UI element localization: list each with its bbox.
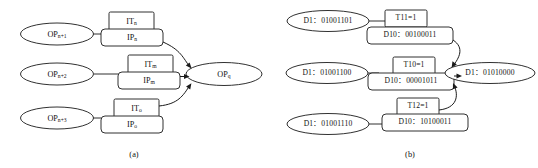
source-ellipse-row-2-label: D1：01001100 [302,68,351,77]
d10-box-row-1-label: D10：00100011 [384,30,437,39]
panel-b-caption: (b) [405,150,415,159]
t-box-row-3-label: T12=1 [407,101,428,110]
panel-a: OPn+1 ITn IPn OPn+2 ITm IPm OPn+3 ITo IP… [0,0,269,168]
t-box-row-1-label: T11=1 [396,13,417,22]
arrowhead-row-3 [453,83,458,89]
figure-container: OPn+1 ITn IPn OPn+2 ITm IPm OPn+3 ITo IP… [0,0,538,168]
panel-b: D1：01001101 T11=1 D10：00100011 D1：010011… [269,0,538,168]
d10-box-row-3-label: D10：10100011 [399,117,452,126]
target-ellipse-label: D1：01010000 [465,68,514,77]
source-ellipse-row-1-label: D1：01001101 [303,16,352,25]
d10-box-row-2-label: D10：00001011 [385,76,438,85]
panel-a-caption: (a) [129,150,139,159]
arrowhead-row-1 [186,63,192,69]
t-box-row-2-label: T10=1 [403,60,424,69]
arrow-row-1-to-target [453,40,460,66]
source-ellipse-row-3-label: D1：01001110 [304,119,353,128]
arrowhead-row-3 [186,83,191,89]
